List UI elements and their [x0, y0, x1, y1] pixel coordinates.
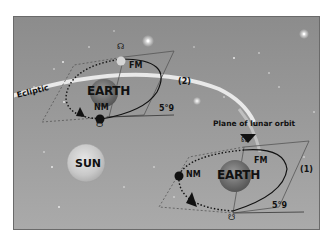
- position-label-2: (2): [178, 78, 191, 86]
- earth-label-2: EARTH: [87, 85, 130, 97]
- position-label-1: (1): [300, 166, 313, 174]
- sun-label: SUN: [75, 158, 101, 169]
- inclination-label-2: 5°9: [159, 105, 174, 113]
- orbit-arrow-1: [186, 192, 197, 207]
- ecliptic-band: [14, 75, 254, 122]
- new-moon-label-1: NM: [186, 171, 201, 179]
- orbit-arrow-2: [76, 107, 85, 117]
- full-moon-2: [117, 57, 126, 66]
- full-moon-label-1: FM: [254, 157, 267, 165]
- full-moon-label-2: FM: [129, 62, 142, 70]
- ascending-node-1: ☊: [241, 136, 248, 144]
- plane-of-lunar-orbit-label: Plane of lunar orbit: [213, 120, 295, 128]
- earth-label-1: EARTH: [217, 169, 260, 181]
- ascending-node-2: ☊: [117, 43, 124, 51]
- descending-node-1: ☋: [228, 214, 235, 222]
- diagram-frame: Ecliptic SUN Plane of lunar orbit ☊ ☋ FM…: [13, 16, 320, 230]
- inclination-label-1: 5°9: [272, 202, 287, 210]
- new-moon-label-2: NM: [94, 104, 109, 112]
- descending-node-2: ☋: [96, 121, 103, 129]
- new-moon-1: [175, 172, 184, 181]
